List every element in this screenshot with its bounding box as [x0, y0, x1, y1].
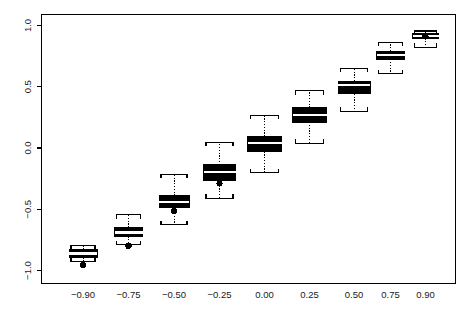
y-axis-tick-label: 0.0 [22, 141, 33, 154]
x-axis-tick-label: 0.00 [255, 289, 274, 300]
box-group [204, 142, 236, 198]
x-axis: −0.90−0.75−0.50−0.250.000.250.500.750.90 [71, 289, 435, 300]
boxplot-chart: 1.00.50.0−0.5−1.0−0.90−0.75−0.50−0.250.0… [0, 0, 475, 318]
whisker-cap [379, 42, 403, 46]
outlier-point [125, 243, 131, 249]
y-axis-tick-label: −0.5 [22, 200, 33, 219]
box-group [69, 245, 97, 268]
box-group [413, 31, 439, 47]
box-group [338, 68, 370, 111]
x-axis-tick-label: −0.75 [116, 289, 140, 300]
x-axis-tick-label: 0.75 [381, 289, 400, 300]
box-group [115, 215, 143, 249]
whisker-cap [415, 43, 437, 47]
x-axis-tick-label: −0.25 [207, 289, 231, 300]
x-axis-tick-label: −0.90 [71, 289, 95, 300]
y-axis-tick-label: 1.0 [22, 19, 33, 32]
outlier-point [216, 180, 222, 186]
y-axis: 1.00.50.0−0.5−1.0 [22, 19, 42, 280]
y-axis-tick-label: −1.0 [22, 261, 33, 280]
x-axis-tick-label: 0.50 [345, 289, 364, 300]
box-iqr [338, 81, 370, 94]
box-group [377, 42, 405, 73]
box-group [248, 115, 282, 172]
box-group [159, 174, 189, 225]
x-axis-tick-label: 0.25 [300, 289, 319, 300]
outlier-point [171, 208, 177, 214]
x-axis-tick-label: −0.50 [162, 289, 186, 300]
boxplot-canvas: 1.00.50.0−0.5−1.0−0.90−0.75−0.50−0.250.0… [0, 0, 475, 318]
outlier-point [80, 262, 86, 268]
box-group [293, 91, 327, 143]
y-axis-tick-label: 0.5 [22, 80, 33, 93]
outlier-point [422, 33, 428, 39]
x-axis-tick-label: 0.90 [416, 289, 435, 300]
